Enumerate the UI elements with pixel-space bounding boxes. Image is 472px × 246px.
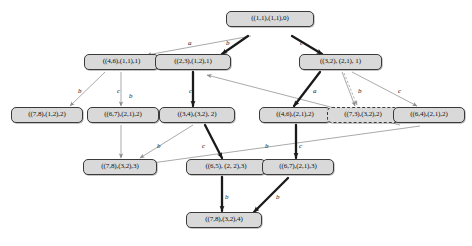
edge-label-b-root-mid: b <box>226 40 230 47</box>
node-7-8-3-2-3[interactable]: ((7,8),(3,2),3) <box>83 159 157 175</box>
edge-n0-n3 <box>292 36 322 54</box>
edge-label-b-n3-n8: b <box>358 88 362 95</box>
edge-label-b-n9-n2: b <box>129 93 133 100</box>
edge-n3-n8-dashed <box>344 73 357 105</box>
node-7-8-1-2-2[interactable]: ((7,8),(1,2),2) <box>11 107 83 123</box>
edge-n12-n13 <box>254 178 288 212</box>
edge-n9-n10-long <box>152 126 420 163</box>
edge-label-c-n3-n9: c <box>398 88 401 95</box>
node-6-7-2-1-2[interactable]: ((6,7),(2,1),2) <box>87 107 159 123</box>
edge-n6-n10 <box>140 125 193 158</box>
edge-label-c-n7-n12: c <box>299 143 302 150</box>
node-root[interactable]: ((1,1),(1,1),0) <box>226 11 314 27</box>
node-4-6-1-1-1[interactable]: ((4,6),(1,1),1) <box>84 54 159 70</box>
node-7-8-3-2-4[interactable]: ((7,8),(3,2),4) <box>186 212 262 228</box>
edge-n1-n4 <box>70 72 105 106</box>
edge-label-b-n12-n13: b <box>276 194 280 201</box>
edge-layer <box>0 0 472 246</box>
node-6-7-2-1-3[interactable]: ((6,7),(2,1),3) <box>262 159 334 175</box>
edge-label-b-n6-n10: b <box>157 143 161 150</box>
edge-label-c-root-right: c <box>300 40 303 47</box>
edge-n3-n8 <box>342 72 355 106</box>
node-3-4-3-2-2[interactable]: ((3,4),(3,2), 2) <box>159 107 235 123</box>
edge-label-c-n1-n5: c <box>117 88 120 95</box>
dashed-edges <box>344 73 357 105</box>
node-4-6-2-1-2[interactable]: ((4,6),(2,1),2) <box>259 107 331 123</box>
edge-label-b-n11-n13: b <box>225 194 229 201</box>
edge-label-b-n9-n10: b <box>265 143 269 150</box>
node-6-4-2-1-2[interactable]: ((6,4),(2,1),2) <box>393 107 465 123</box>
node-7-3-3-2-2[interactable]: ((7,3),(3,2),2) <box>327 107 399 123</box>
edge-n6-n11 <box>205 125 222 158</box>
node-2-3-1-2-1[interactable]: ((2,3),(1,2),1) <box>155 54 231 70</box>
edge-label-c-n6-n11: c <box>202 143 205 150</box>
node-3-2-2-1-1[interactable]: ((3,2), (2,1), 1) <box>299 54 382 70</box>
edge-label-c-n2-n6: c <box>189 88 192 95</box>
node-6-5-2-2-3[interactable]: ((6,5), (2, 2),3) <box>186 159 266 175</box>
edge-label-a-n3-n7: a <box>313 88 317 95</box>
diagram-canvas: ((1,1),(1,1),0) ((4,6),(1,1),1) ((2,3),(… <box>0 0 472 246</box>
edge-label-b-n1-n4: b <box>78 88 82 95</box>
edge-label-a-root-left: a <box>188 40 192 47</box>
